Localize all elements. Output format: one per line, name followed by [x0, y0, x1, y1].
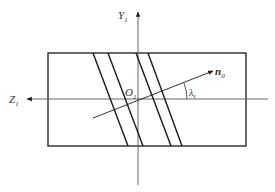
y-axis-label: Y1 [118, 9, 128, 24]
diagram-canvas: Y1 Z1 O1 n0 λs [0, 0, 275, 192]
diagram-svg: Y1 Z1 O1 n0 λs [0, 0, 275, 192]
normal-label: n0 [215, 65, 225, 80]
z-axis-label: Z1 [9, 93, 19, 108]
angle-label: λs [188, 87, 196, 99]
slant-line-1 [93, 53, 128, 146]
angle-arc [184, 83, 187, 99]
